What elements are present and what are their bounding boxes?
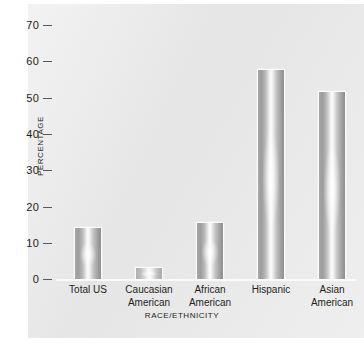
bar-highlight	[75, 228, 101, 279]
x-tick-label-asian-american: Asian American	[300, 284, 364, 309]
x-tick-line: American	[117, 297, 181, 310]
x-tick-label-hispanic: Hispanic	[239, 284, 303, 297]
x-tick-line: American	[178, 297, 242, 310]
x-tick-label-african-american: African American	[178, 284, 242, 309]
x-tick-line: American	[300, 297, 364, 310]
bar-hispanic[interactable]	[258, 70, 284, 279]
bar-caucasian-american[interactable]	[136, 268, 162, 279]
x-tick-line: Caucasian	[117, 284, 181, 297]
bar-total-us[interactable]	[75, 228, 101, 279]
x-tick-line: Hispanic	[239, 284, 303, 297]
bar-african-american[interactable]	[197, 223, 223, 279]
bar-highlight	[319, 92, 345, 279]
x-tick-label-caucasian-american: Caucasian American	[117, 284, 181, 309]
bar-highlight	[136, 268, 162, 279]
bar-chart-figure: 70 60 50 40 30 20 10 0 PERCENTAGE	[0, 0, 364, 345]
x-tick-line: Total US	[56, 284, 120, 297]
bar-highlight	[258, 70, 284, 279]
x-axis-title: RACE/ETHNICITY	[0, 311, 364, 320]
bar-highlight	[197, 223, 223, 279]
bar-asian-american[interactable]	[319, 92, 345, 279]
x-tick-line: Asian	[300, 284, 364, 297]
x-tick-label-total-us: Total US	[56, 284, 120, 297]
x-tick-line: African	[178, 284, 242, 297]
